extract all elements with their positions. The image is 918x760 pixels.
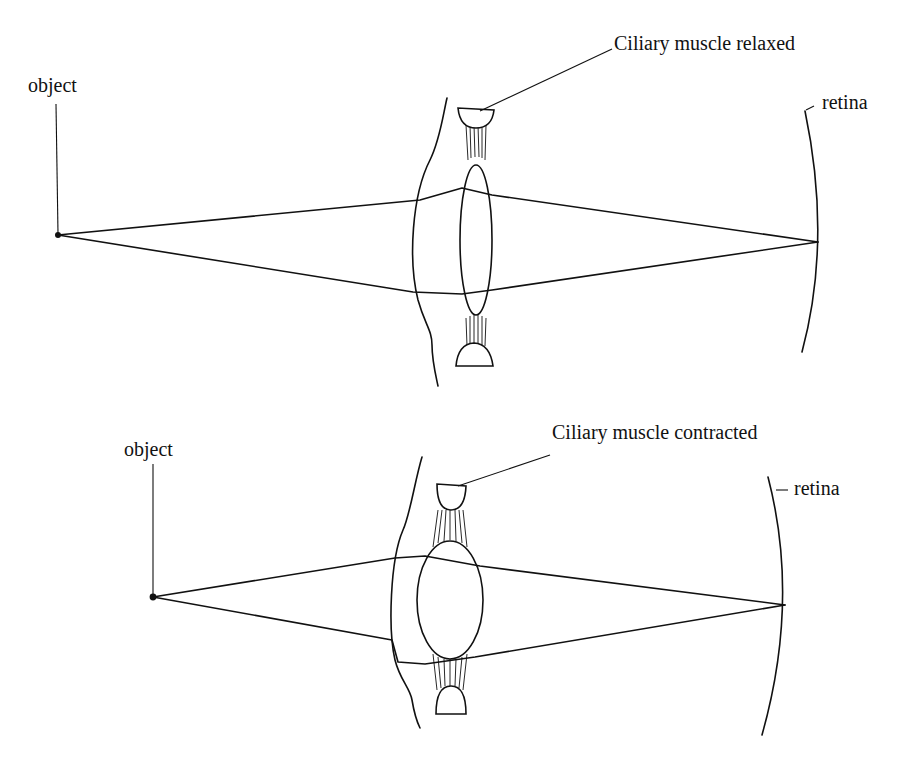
muscle-leader-line (480, 49, 612, 111)
panel-contracted: object (124, 421, 840, 735)
ciliary-muscle-top (437, 484, 466, 510)
panel-relaxed: object (28, 32, 868, 386)
retina-leader-line (806, 106, 814, 110)
lower-light-ray (58, 235, 818, 294)
upper-light-ray (58, 188, 818, 242)
object-leader-line (56, 104, 58, 234)
lens-thick (417, 541, 483, 659)
ciliary-muscle-bottom (456, 343, 493, 366)
suspensory-fibers-top (466, 125, 486, 160)
object-label: object (124, 438, 173, 461)
lower-light-ray (153, 597, 785, 664)
accommodation-diagram: object (0, 0, 918, 760)
retina-arc (802, 111, 818, 352)
upper-light-ray (153, 556, 785, 605)
muscle-leader-line (458, 455, 550, 486)
retina-label: retina (794, 477, 840, 499)
cornea-outline (413, 98, 447, 386)
ciliary-muscle-top (458, 108, 494, 128)
ciliary-muscle-bottom (436, 686, 466, 714)
muscle-state-label: Ciliary muscle contracted (552, 421, 757, 444)
retina-label: retina (822, 91, 868, 113)
muscle-state-label: Ciliary muscle relaxed (614, 32, 795, 55)
object-label: object (28, 74, 77, 97)
suspensory-fibers-bottom (466, 315, 486, 346)
